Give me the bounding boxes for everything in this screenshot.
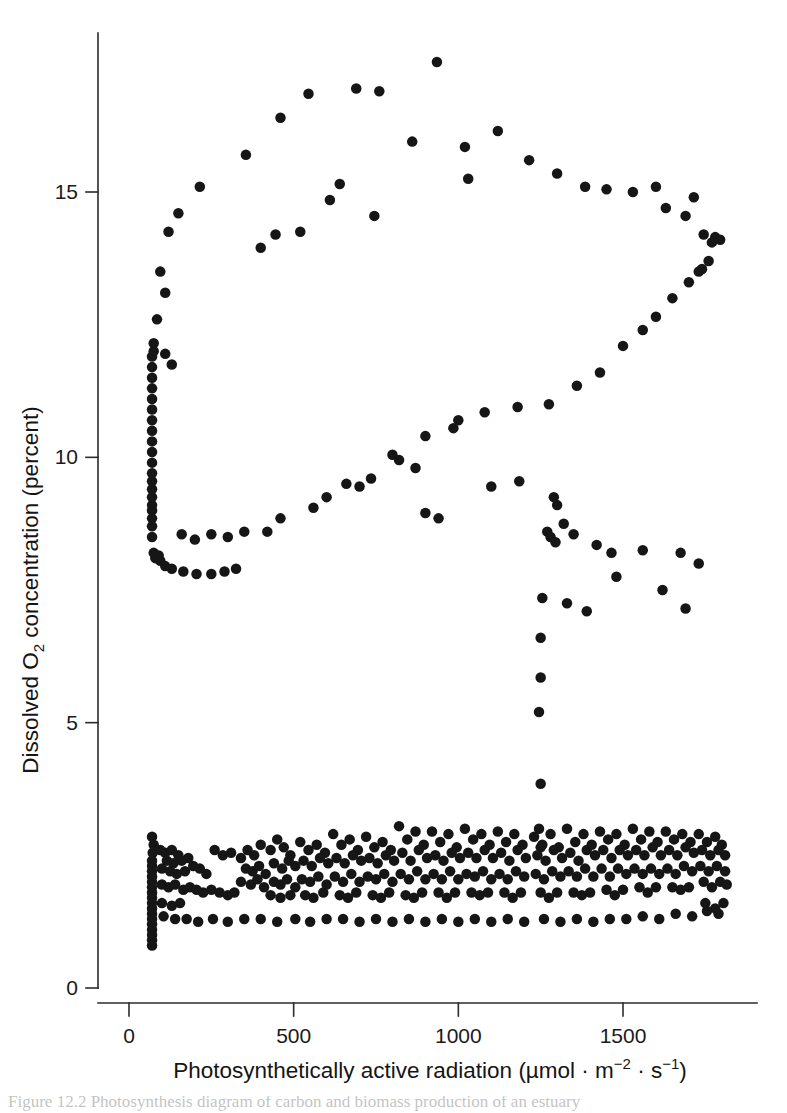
data-point: [160, 349, 171, 360]
y-axis-title: Dissolved O2 concentration (percent): [18, 406, 47, 773]
data-point: [173, 208, 184, 219]
data-point: [366, 473, 377, 484]
x-axis-ticks: 050010001500: [123, 1003, 646, 1047]
data-point: [638, 911, 649, 922]
data-point: [478, 866, 489, 877]
data-point: [618, 885, 629, 896]
data-point: [558, 518, 569, 529]
data-point: [684, 277, 695, 288]
data-point: [721, 879, 732, 890]
data-point: [539, 874, 550, 885]
data-point: [720, 850, 731, 861]
data-point: [384, 887, 395, 898]
data-point: [181, 914, 192, 925]
data-point: [694, 558, 705, 569]
data-point: [206, 529, 217, 540]
data-point: [654, 914, 665, 925]
data-point: [463, 173, 474, 184]
data-point: [595, 826, 606, 837]
data-point: [176, 529, 187, 540]
data-point: [534, 707, 545, 718]
data-point: [152, 314, 163, 325]
data-point: [351, 887, 362, 898]
data-point: [170, 914, 181, 925]
data-point: [670, 908, 681, 919]
data-point: [606, 853, 617, 864]
data-point: [601, 184, 612, 195]
data-point: [147, 415, 158, 426]
data-point: [321, 914, 332, 925]
data-point: [223, 916, 234, 927]
data-point: [191, 569, 202, 580]
data-point: [502, 914, 512, 925]
data-point: [479, 845, 490, 856]
data-point: [239, 914, 250, 925]
data-point: [420, 508, 431, 519]
data-point: [661, 826, 672, 837]
data-point: [524, 155, 535, 166]
data-point: [661, 203, 672, 214]
data-point: [702, 906, 713, 917]
data-point: [223, 532, 234, 543]
data-point: [675, 548, 686, 559]
data-point: [707, 237, 718, 248]
data-point: [486, 916, 497, 927]
data-point: [591, 540, 602, 551]
data-point: [346, 869, 357, 880]
data-point: [275, 112, 286, 123]
data-point: [539, 914, 550, 925]
data-point: [657, 585, 668, 596]
data-point: [639, 850, 650, 861]
data-point: [379, 869, 390, 880]
data-point: [435, 837, 446, 848]
y-axis-title-pre: Dissolved O: [18, 652, 43, 773]
data-point: [651, 311, 662, 322]
data-point: [201, 869, 212, 880]
data-point: [158, 911, 169, 922]
data-point: [512, 845, 523, 856]
data-point: [718, 898, 729, 909]
data-point: [667, 293, 678, 304]
data-point: [512, 402, 523, 413]
data-point: [407, 136, 418, 147]
x-axis-title-tail: ): [679, 1058, 687, 1083]
data-point: [265, 845, 276, 856]
data-point: [552, 500, 563, 511]
data-point: [338, 877, 349, 888]
y-axis-ticks: 051015: [55, 180, 98, 999]
data-point: [361, 832, 372, 843]
data-point: [311, 839, 322, 850]
data-point: [410, 826, 421, 837]
data-point: [295, 837, 306, 848]
data-point: [147, 362, 158, 373]
data-point: [680, 603, 691, 614]
data-point: [147, 447, 158, 458]
data-point: [308, 503, 319, 514]
data-point: [404, 874, 415, 885]
data-point: [295, 227, 306, 238]
data-point: [529, 832, 540, 843]
data-point: [647, 842, 658, 853]
data-point: [501, 837, 512, 848]
data-point: [412, 866, 423, 877]
data-point: [713, 908, 724, 919]
data-point: [262, 526, 273, 537]
x-axis-title-superscript-1: −2: [614, 1055, 631, 1072]
data-point: [516, 887, 527, 898]
data-point: [544, 399, 555, 410]
data-point: [588, 916, 599, 927]
data-point: [354, 481, 365, 492]
data-point: [272, 916, 283, 927]
data-point: [651, 181, 662, 192]
data-point: [670, 869, 681, 880]
data-point: [387, 916, 398, 927]
data-point: [389, 855, 400, 866]
data-point: [305, 916, 316, 927]
data-point: [694, 266, 705, 277]
data-point: [147, 426, 158, 437]
data-point: [443, 829, 454, 840]
x-axis-title-mid: · s: [631, 1058, 662, 1083]
data-point: [282, 874, 293, 885]
data-point: [605, 914, 616, 925]
data-point: [605, 871, 616, 882]
